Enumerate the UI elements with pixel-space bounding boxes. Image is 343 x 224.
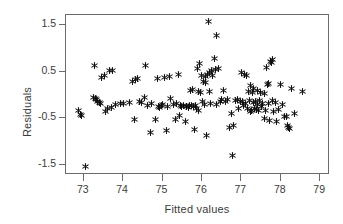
data-point-marker	[200, 78, 207, 85]
data-point-marker	[91, 62, 98, 69]
x-tick-mark	[240, 174, 241, 181]
data-point-marker	[195, 88, 202, 95]
data-point-marker	[247, 82, 254, 89]
data-point-marker	[106, 67, 113, 74]
data-point-marker	[207, 100, 214, 107]
data-point-marker	[202, 73, 209, 80]
data-point-marker	[288, 85, 295, 92]
data-point-marker	[245, 88, 252, 95]
y-tick-label: -0.5	[18, 110, 56, 122]
data-point-marker	[241, 71, 248, 78]
data-point-marker	[185, 104, 192, 111]
data-point-marker	[190, 103, 197, 110]
data-point-marker	[182, 118, 189, 125]
data-point-marker	[131, 116, 138, 123]
data-point-marker	[193, 105, 200, 112]
x-tick-label: 74	[107, 183, 137, 195]
data-point-marker	[281, 113, 288, 120]
data-point-marker	[134, 75, 141, 82]
data-point-marker	[257, 89, 264, 96]
data-point-marker	[273, 118, 280, 125]
data-point-marker	[291, 110, 298, 117]
data-point-marker	[209, 72, 216, 79]
data-point-marker	[97, 100, 104, 107]
data-point-marker	[188, 102, 195, 109]
data-point-marker	[152, 116, 159, 123]
data-point-marker	[192, 102, 199, 109]
data-point-marker	[167, 95, 174, 102]
data-point-marker	[268, 59, 275, 66]
data-point-marker	[183, 103, 190, 110]
data-point-marker	[158, 102, 165, 109]
data-point-marker	[166, 73, 173, 80]
data-point-marker	[194, 65, 201, 72]
data-point-marker	[261, 90, 268, 97]
y-tick-mark	[59, 164, 66, 165]
data-point-marker	[230, 122, 237, 129]
data-point-marker	[272, 99, 279, 106]
data-point-marker	[237, 98, 244, 105]
x-tick-label: 77	[225, 183, 255, 195]
data-point-marker	[101, 72, 108, 79]
data-point-marker	[155, 103, 162, 110]
data-point-marker	[142, 62, 149, 69]
data-point-marker	[187, 87, 194, 94]
data-point-marker	[261, 115, 268, 122]
data-point-marker	[120, 100, 127, 107]
data-point-marker	[96, 99, 103, 106]
data-point-marker	[213, 101, 220, 108]
x-tick-mark	[162, 174, 163, 181]
y-tick-label: 1.5	[18, 17, 56, 29]
data-point-marker	[234, 96, 241, 103]
data-point-marker	[154, 75, 161, 82]
data-point-marker	[75, 107, 82, 114]
data-point-marker	[267, 58, 274, 65]
x-tick-mark	[280, 174, 281, 181]
data-point-marker	[102, 108, 109, 115]
data-point-marker	[147, 129, 154, 136]
data-point-marker	[244, 105, 251, 112]
data-point-marker	[208, 67, 215, 74]
data-point-marker	[265, 100, 272, 107]
data-point-marker	[215, 65, 222, 72]
data-point-marker	[117, 100, 124, 107]
data-point-marker	[252, 98, 259, 105]
data-point-marker	[246, 97, 253, 104]
data-point-marker	[232, 97, 239, 104]
data-point-marker	[270, 108, 277, 115]
data-point-marker	[265, 80, 272, 87]
data-point-marker	[242, 100, 249, 107]
data-point-marker	[283, 113, 290, 120]
data-point-marker	[180, 102, 187, 109]
x-tick-mark	[319, 174, 320, 181]
data-point-marker	[251, 105, 258, 112]
plot-area	[66, 15, 328, 173]
data-point-marker	[262, 107, 269, 114]
data-point-marker	[202, 79, 209, 86]
data-point-marker	[156, 104, 163, 111]
x-tick-label: 75	[147, 183, 177, 195]
data-point-marker	[108, 104, 115, 111]
data-point-marker	[77, 111, 84, 118]
data-point-marker	[173, 100, 180, 107]
data-point-marker	[228, 110, 235, 117]
data-point-marker	[255, 107, 262, 114]
data-point-marker	[212, 66, 219, 73]
y-tick-label: -1.5	[18, 157, 56, 169]
data-point-marker	[136, 98, 143, 105]
data-point-marker	[250, 99, 257, 106]
data-point-marker	[189, 86, 196, 93]
data-point-marker	[254, 87, 261, 94]
data-point-marker	[286, 125, 293, 132]
data-point-marker	[93, 96, 100, 103]
data-point-marker	[277, 81, 284, 88]
data-point-marker	[222, 98, 229, 105]
data-point-marker	[217, 98, 224, 105]
data-point-marker	[248, 107, 255, 114]
data-point-marker	[104, 105, 111, 112]
data-point-marker	[240, 102, 247, 109]
data-point-marker	[263, 64, 270, 71]
data-point-marker	[269, 97, 276, 104]
data-point-marker	[229, 152, 236, 159]
data-point-marker	[269, 56, 276, 63]
